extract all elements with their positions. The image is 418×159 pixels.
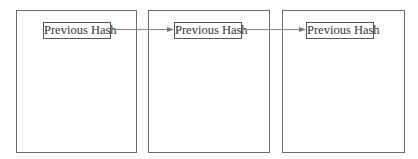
- arrow-1-to-2: [111, 27, 174, 32]
- arrowhead-icon: [167, 27, 174, 32]
- connection-arrows: [0, 0, 418, 159]
- arrow-2-to-3: [242, 27, 306, 32]
- arrowhead-icon: [299, 27, 306, 32]
